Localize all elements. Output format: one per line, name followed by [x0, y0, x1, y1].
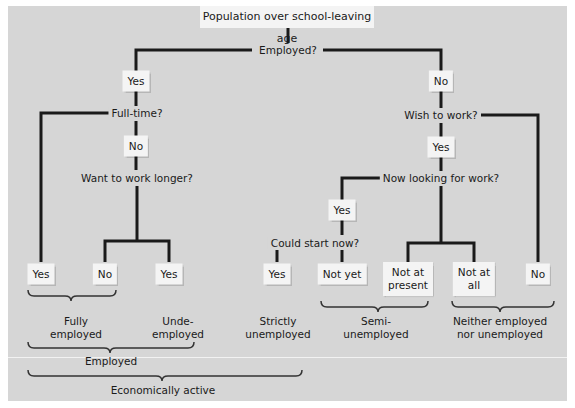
leaf-not-yet: Not yet — [318, 264, 367, 285]
category-semi-line2: unemployed — [343, 328, 408, 341]
leaf-not-at-present-line1: Not at — [388, 266, 428, 279]
leaf-not-at-all: Not at all — [453, 262, 495, 296]
category-semi-line1: Semi- — [343, 315, 408, 328]
category-semi-unemployed: Semi- unemployed — [343, 315, 408, 341]
category-neither-line2: nor unemployed — [453, 328, 547, 341]
root-node: Population over school-leaving age — [200, 6, 374, 28]
answer-looking-yes: Yes — [329, 200, 356, 221]
category-strict-line1: Strictly — [245, 315, 310, 328]
leaf-longer-yes: Yes — [156, 264, 183, 285]
answer-wish-yes: Yes — [428, 137, 455, 158]
leaf-longer-no: No — [93, 264, 117, 285]
connector-lines — [0, 0, 575, 408]
category-underemployed: Unde- employed — [152, 315, 204, 341]
question-now-looking: Now looking for work? — [380, 172, 502, 184]
category-neither: Neither employed nor unemployed — [453, 315, 547, 341]
category-strict-line2: unemployed — [245, 328, 310, 341]
leaf-not-at-present-line2: present — [388, 279, 428, 292]
category-strictly-unemployed: Strictly unemployed — [245, 315, 310, 341]
category-fully-line2: employed — [50, 328, 102, 341]
category-fully-line1: Fully — [50, 315, 102, 328]
leaf-start-yes: Yes — [264, 264, 291, 285]
leaf-not-at-all-line1: Not at — [458, 266, 490, 279]
answer-employed-no: No — [429, 71, 453, 92]
question-employed: Employed? — [256, 44, 320, 56]
leaf-not-at-all-line2: all — [458, 279, 490, 292]
category-employed: Employed — [85, 355, 137, 368]
category-under-line1: Unde- — [152, 315, 204, 328]
question-could-start: Could start now? — [268, 237, 362, 249]
answer-full-time-no: No — [124, 136, 148, 157]
category-fully-employed: Fully employed — [50, 315, 102, 341]
category-neither-line1: Neither employed — [453, 315, 547, 328]
question-wish-to-work: Wish to work? — [401, 109, 480, 121]
answer-employed-yes: Yes — [123, 71, 150, 92]
leaf-full-time-yes: Yes — [28, 264, 55, 285]
leaf-wish-no: No — [526, 264, 550, 285]
category-economically-active: Economically active — [111, 384, 216, 397]
category-under-line2: employed — [152, 328, 204, 341]
question-want-longer: Want to work longer? — [78, 172, 196, 184]
leaf-not-at-present: Not at present — [383, 262, 433, 296]
question-full-time: Full-time? — [108, 107, 165, 119]
